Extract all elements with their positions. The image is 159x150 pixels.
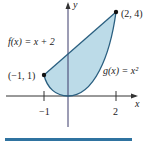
point-neg1-1: [42, 73, 46, 77]
x-tick-label-2: 2: [113, 106, 118, 117]
y-axis-arrow-icon: [66, 2, 71, 9]
x-axis-label: x: [134, 98, 140, 109]
y-axis-label: y: [72, 0, 78, 10]
shaded-region: [44, 12, 116, 96]
divider-bar: [5, 138, 132, 141]
equation-label-f: f(x) = x + 2: [8, 36, 55, 48]
region-diagram: y x −1 2 (−1, 1) (2, 4) f(x) = x + 2 g(x…: [0, 0, 159, 150]
point-label-2-4: (2, 4): [121, 8, 143, 20]
x-tick-label-neg1: −1: [39, 106, 50, 117]
equation-label-g: g(x) = x²: [103, 65, 139, 77]
point-2-4: [114, 10, 118, 14]
point-label-neg1-1: (−1, 1): [8, 70, 35, 82]
